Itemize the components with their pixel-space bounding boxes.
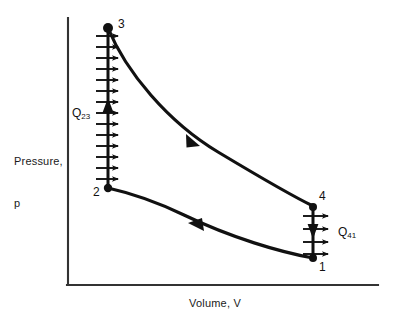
state-point-3-marker bbox=[103, 23, 113, 33]
q41-heat-arrows bbox=[303, 216, 328, 254]
process-2-3-isochoric bbox=[96, 28, 118, 189]
process-2-3-direction-arrowhead bbox=[102, 98, 113, 113]
y-axis-label: Pressure, p bbox=[14, 126, 63, 238]
process-1-2-isothermal bbox=[108, 188, 313, 258]
y-axis-label-line1: Pressure, bbox=[14, 154, 63, 168]
y-axis-label-line2: p bbox=[14, 196, 63, 210]
heat-label-q23-base: Q bbox=[72, 106, 81, 120]
heat-label-q23-sub: 23 bbox=[81, 112, 90, 121]
state-label-2: 2 bbox=[93, 186, 100, 198]
state-label-4: 4 bbox=[319, 190, 326, 202]
heat-label-q41-base: Q bbox=[338, 225, 347, 239]
process-4-1-direction-arrowhead bbox=[308, 224, 319, 239]
process-4-1-isochoric bbox=[303, 206, 328, 259]
pv-diagram-figure: Pressure, p Volume, V 3 2 4 1 Q23 Q41 bbox=[0, 0, 395, 324]
process-3-4-curve bbox=[108, 28, 313, 206]
process-1-2-curve bbox=[108, 188, 313, 258]
heat-label-q41: Q41 bbox=[338, 226, 356, 240]
state-label-3: 3 bbox=[118, 18, 125, 30]
state-point-2-marker bbox=[104, 184, 112, 192]
state-point-1-marker bbox=[309, 254, 317, 262]
state-point-4-marker bbox=[309, 203, 317, 211]
heat-label-q41-sub: 41 bbox=[347, 231, 356, 240]
x-axis-label: Volume, V bbox=[189, 296, 241, 310]
process-3-4-isothermal bbox=[108, 28, 313, 206]
heat-label-q23: Q23 bbox=[72, 107, 90, 121]
state-label-1: 1 bbox=[319, 261, 326, 273]
